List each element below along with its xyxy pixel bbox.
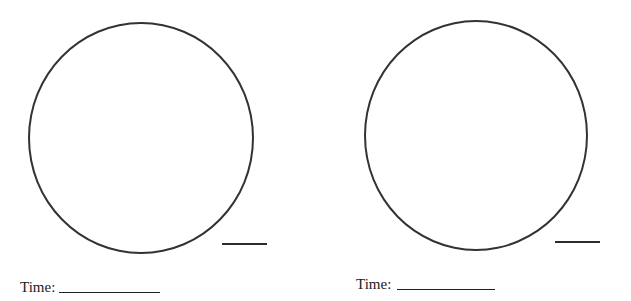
answer-blank-line[interactable] [222, 243, 267, 245]
time-answer-blank[interactable] [59, 292, 160, 293]
clock-item-1: Time: [0, 0, 315, 301]
clock-face-circle [364, 20, 588, 251]
answer-blank-line[interactable] [555, 241, 600, 243]
time-label: Time: [356, 277, 391, 292]
clock-face-circle [28, 22, 254, 254]
clock-item-2: Time: [336, 0, 631, 301]
time-label: Time: [20, 280, 55, 295]
time-answer-blank[interactable] [397, 289, 495, 290]
